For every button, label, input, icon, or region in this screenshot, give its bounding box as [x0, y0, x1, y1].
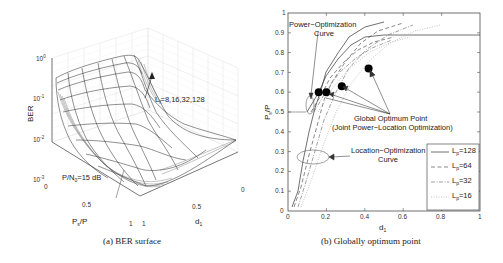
x-tick-04: 0.4: [360, 213, 369, 220]
y-tick-06: 0.6: [275, 88, 284, 95]
d1-axis-label: d1: [195, 217, 202, 227]
surface-dense-band: [58, 60, 236, 187]
y-tick-03: 0.3: [275, 148, 284, 155]
annotation-snr: P/N0=15 dB: [62, 173, 101, 183]
d1-tick-1: 1: [142, 220, 146, 227]
y-tick-02: 0.2: [275, 167, 284, 174]
figure: 100 10-1 10-2 10-3 BER 0 0.5 1 Ps/P 1 0.…: [0, 0, 503, 263]
location-opt-label-2: Curve: [378, 155, 398, 164]
panel-b-optimum: 0 0.2 0.4 0.6 0.8 1 d1 0 0.1 0.2 0.3 0.4…: [263, 9, 482, 246]
caption-b: (b) Globally optimum point: [321, 236, 421, 246]
ps-tick-05: 0.5: [82, 201, 91, 208]
y-tick-01: 0.1: [275, 187, 284, 194]
x-tick-02: 0.2: [321, 213, 330, 220]
curve-lp16-power: [318, 37, 410, 112]
z-axis-label: BER: [26, 105, 35, 122]
z-tick-1: 10-1: [33, 94, 45, 102]
z-tick-0: 100: [36, 54, 46, 62]
annotation-lf: Lf=8,16,32,128: [155, 95, 205, 105]
optimum-lp64: [322, 88, 330, 96]
location-opt-ellipse: [297, 150, 329, 164]
curve-lp64-power: [311, 37, 394, 112]
ps-tick-0: 0: [44, 183, 48, 190]
panel-a-ber-surface: 100 10-1 10-2 10-3 BER 0 0.5 1 Ps/P 1 0.…: [26, 28, 245, 246]
power-opt-ellipse: [306, 96, 314, 114]
arrow-lf: [145, 72, 155, 98]
d1-tick-0: 0: [241, 186, 245, 193]
global-opt-label-2: (Joint Power−Location Optimization): [332, 123, 453, 132]
x-tick-06: 0.6: [398, 213, 407, 220]
ps-tick-1: 1: [129, 220, 133, 227]
curve-lp128-power: [307, 35, 480, 112]
power-opt-label-2: Curve: [314, 29, 334, 38]
y-tick-1: 1: [282, 9, 286, 16]
legend-b: Lp=128 Lp=64 Lp=32 Lp=16: [427, 144, 479, 210]
x-axis-label-b: d1: [379, 223, 386, 233]
optimum-lp128: [315, 88, 323, 96]
ps-axis-label: Ps/P: [72, 217, 87, 227]
location-opt-label-1: Location−Optimization: [351, 146, 425, 155]
y-tick-05: 0.5: [275, 108, 284, 115]
x-tick-0: 0: [286, 213, 290, 220]
y-axis-label-b: Ps/P: [263, 105, 273, 120]
y-tick-07: 0.7: [275, 69, 284, 76]
y-tick-04: 0.4: [275, 128, 284, 135]
z-tick-2: 10-2: [33, 135, 45, 143]
annotation-arrows: [309, 32, 390, 160]
legend-item-lp16: Lp=16: [452, 191, 472, 201]
x-tick-08: 0.8: [436, 213, 445, 220]
d1-tick-05: 0.5: [192, 203, 201, 210]
y-tick-0: 0: [280, 207, 284, 214]
caption-a: (a) BER surface: [103, 236, 161, 246]
power-opt-label-1: Power−Optimization: [289, 20, 356, 29]
z-tick-3: 10-3: [33, 175, 45, 183]
global-opt-label-1: Global Optimum Point: [354, 114, 428, 123]
y-tick-08: 0.8: [275, 49, 284, 56]
y-tick-09: 0.9: [275, 29, 284, 36]
surface-mesh: [56, 55, 236, 186]
legend-item-lp64: Lp=64: [452, 161, 472, 171]
legend-item-lp32: Lp=32: [452, 176, 472, 186]
x-tick-1: 1: [478, 213, 482, 220]
legend-item-lp128: Lp=128: [452, 146, 476, 156]
